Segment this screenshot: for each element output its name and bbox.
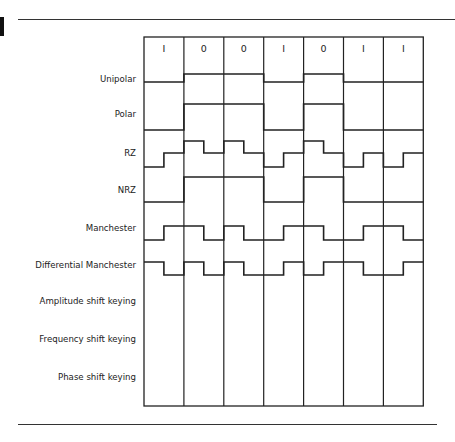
bit-label: 0 — [321, 43, 327, 54]
waveform-polar — [144, 104, 423, 130]
waveform-rz — [144, 141, 423, 167]
bit-label: I — [282, 43, 285, 54]
bit-label: I — [362, 43, 365, 54]
waveform-nrz — [144, 177, 423, 202]
row-label: RZ — [124, 148, 136, 158]
grid-border — [144, 37, 423, 406]
row-label: Amplitude shift keying — [40, 296, 136, 306]
row-label: NRZ — [118, 185, 136, 195]
row-label: Unipolar — [100, 74, 136, 84]
row-label: Polar — [115, 109, 137, 119]
row-labels: UnipolarPolarRZNRZManchesterDifferential… — [35, 74, 136, 382]
waveform-unipolar — [144, 74, 423, 82]
waveform-manchester — [144, 226, 423, 240]
waveforms — [144, 74, 423, 275]
bit-label: 0 — [241, 43, 247, 54]
bit-grid — [144, 37, 423, 406]
encoding-diagram: I00I0II UnipolarPolarRZNRZManchesterDiff… — [0, 0, 455, 442]
bit-header: I00I0II — [163, 43, 405, 54]
bit-label: I — [402, 43, 405, 54]
bit-label: 0 — [201, 43, 207, 54]
waveform-differential-manchester — [144, 262, 423, 275]
bit-label: I — [163, 43, 166, 54]
row-label: Frequency shift keying — [39, 334, 136, 344]
row-label: Manchester — [86, 223, 137, 233]
section-marker — [0, 17, 4, 36]
row-label: Phase shift keying — [58, 372, 136, 382]
row-label: Differential Manchester — [35, 260, 136, 270]
